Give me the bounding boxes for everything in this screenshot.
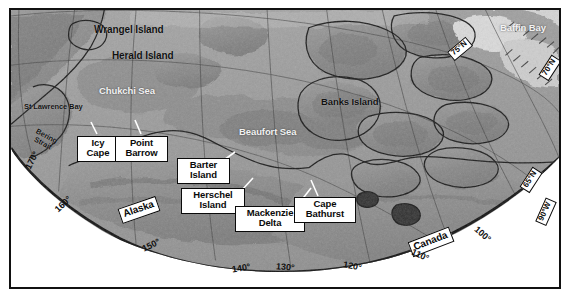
barter-island-line2: Island: [181, 170, 226, 180]
st-lawrence-bay-label: St Lawrence Bay: [24, 103, 78, 111]
cape-bathurst-label: Cape Bathurst: [294, 197, 356, 223]
beaufort-sea-label: Beaufort Sea: [239, 127, 296, 137]
st-lawrence-bay-text: St Lawrence Bay: [24, 102, 83, 111]
cape-bathurst-line2: Bathurst: [298, 209, 352, 219]
lon-130-label: 130°: [276, 262, 295, 273]
barter-island-label: Barter Island: [177, 158, 230, 184]
icy-cape-line2: Cape: [81, 148, 115, 158]
arctic-map-figure: Chukchi Sea Beaufort Sea Baffin Bay Wran…: [0, 0, 570, 301]
baffin-bay-label: Baffin Bay: [500, 23, 546, 33]
banks-island-label: Banks Island: [321, 97, 378, 107]
herschel-island-line2: Island: [185, 200, 241, 210]
mackenzie-delta-line2: Delta: [239, 218, 301, 228]
wrangel-island-label: Wrangel Island: [94, 25, 164, 36]
chukchi-sea-label: Chukchi Sea: [99, 86, 155, 96]
banks-island-line1: Banks Island: [321, 96, 378, 107]
point-barrow-line2: Barrow: [119, 148, 164, 158]
icy-cape-label: Icy Cape: [77, 136, 119, 162]
point-barrow-label: Point Barrow: [115, 136, 168, 162]
herald-island-label: Herald Island: [112, 51, 174, 62]
map-frame: Chukchi Sea Beaufort Sea Baffin Bay Wran…: [9, 8, 561, 289]
